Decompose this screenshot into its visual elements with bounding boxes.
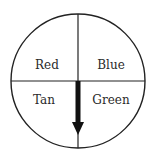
section-label-tan: Tan — [33, 93, 55, 107]
section-label-blue: Blue — [97, 58, 125, 72]
section-label-green: Green — [92, 93, 130, 107]
section-label-red: Red — [35, 58, 59, 72]
spinner-diagram: Red Blue Tan Green — [0, 0, 151, 156]
